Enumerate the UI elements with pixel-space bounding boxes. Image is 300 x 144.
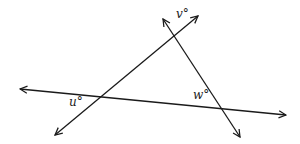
line-uv xyxy=(55,16,198,135)
angle-label-v: v° xyxy=(176,7,189,21)
angle-label-u: u° xyxy=(69,95,83,109)
angle-label-w: w° xyxy=(193,88,209,102)
line-w xyxy=(163,19,240,137)
line-horizontal xyxy=(20,89,286,115)
diagram-canvas: v° u° w° xyxy=(0,0,300,144)
geometry-diagram: v° u° w° xyxy=(0,0,300,144)
